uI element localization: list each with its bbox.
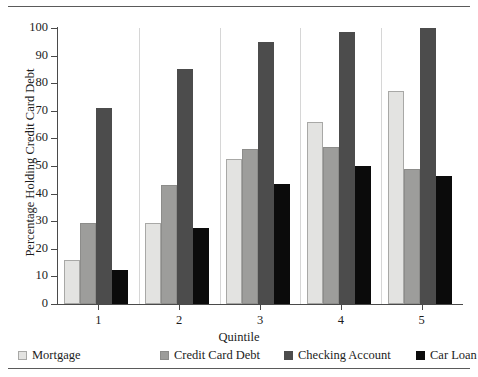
legend-label: Checking Account bbox=[298, 348, 391, 362]
bar-car-loan-q1 bbox=[112, 270, 128, 305]
legend-swatch-icon bbox=[284, 351, 293, 360]
y-tick-mark bbox=[51, 83, 57, 84]
x-tick-mark bbox=[260, 305, 261, 310]
legend-label: Car Loan bbox=[430, 348, 477, 362]
bottom-rule bbox=[8, 368, 470, 369]
x-tick-label-q5: 5 bbox=[402, 313, 442, 327]
y-tick-label: 20 bbox=[14, 242, 48, 255]
legend-item-car-loan[interactable]: Car Loan bbox=[416, 348, 477, 362]
legend-label: Mortgage bbox=[32, 348, 81, 362]
y-tick-mark bbox=[51, 276, 57, 277]
y-tick-mark bbox=[51, 56, 57, 57]
y-tick-label: 40 bbox=[14, 187, 48, 200]
bar-credit-card-debt-q4 bbox=[323, 147, 339, 304]
y-tick-label: 10 bbox=[14, 269, 48, 282]
x-tick-mark bbox=[341, 305, 342, 310]
legend-item-credit-card-debt[interactable]: Credit Card Debt bbox=[160, 348, 260, 362]
y-tick-label: 50 bbox=[14, 159, 48, 172]
bar-car-loan-q3 bbox=[274, 184, 290, 304]
x-tick-label-q3: 3 bbox=[240, 313, 280, 327]
x-tick-mark bbox=[179, 305, 180, 310]
legend-label: Credit Card Debt bbox=[174, 348, 260, 362]
group-separator bbox=[300, 28, 301, 304]
y-tick-label: 80 bbox=[14, 76, 48, 89]
y-tick-mark bbox=[51, 221, 57, 222]
group-separator bbox=[220, 28, 221, 304]
bar-car-loan-q4 bbox=[355, 166, 371, 304]
y-tick-mark bbox=[51, 138, 57, 139]
bar-mortgage-q4 bbox=[307, 122, 323, 304]
top-rule bbox=[8, 6, 470, 7]
legend-item-checking-account[interactable]: Checking Account bbox=[284, 348, 391, 362]
bar-credit-card-debt-q3 bbox=[242, 149, 258, 304]
bar-mortgage-q2 bbox=[145, 223, 161, 304]
legend-swatch-icon bbox=[160, 351, 169, 360]
y-tick-mark bbox=[51, 166, 57, 167]
bar-credit-card-debt-q1 bbox=[80, 223, 96, 304]
bar-checking-account-q2 bbox=[177, 69, 193, 304]
legend-item-mortgage[interactable]: Mortgage bbox=[18, 348, 81, 362]
y-tick-mark bbox=[51, 111, 57, 112]
x-tick-label-q1: 1 bbox=[78, 313, 118, 327]
x-tick-mark bbox=[98, 305, 99, 310]
y-tick-label: 70 bbox=[14, 104, 48, 117]
group-separator bbox=[381, 28, 382, 304]
y-tick-label: 0 bbox=[14, 297, 48, 310]
y-tick-label: 100 bbox=[14, 21, 48, 34]
bar-car-loan-q5 bbox=[436, 176, 452, 304]
legend-swatch-icon bbox=[18, 351, 27, 360]
plot-area bbox=[58, 28, 462, 304]
x-tick-label-q2: 2 bbox=[159, 313, 199, 327]
y-tick-mark bbox=[51, 194, 57, 195]
bar-checking-account-q1 bbox=[96, 108, 112, 304]
chart-figure: Percentage Holding Credit Card Debt 0102… bbox=[0, 0, 478, 377]
y-tick-mark bbox=[51, 304, 57, 305]
bar-checking-account-q3 bbox=[258, 42, 274, 304]
bar-mortgage-q3 bbox=[226, 159, 242, 304]
bar-car-loan-q2 bbox=[193, 228, 209, 304]
x-tick-label-q4: 4 bbox=[321, 313, 361, 327]
y-tick-label: 90 bbox=[14, 49, 48, 62]
group-separator bbox=[139, 28, 140, 304]
bar-credit-card-debt-q5 bbox=[404, 169, 420, 304]
y-tick-label: 30 bbox=[14, 214, 48, 227]
y-tick-label: 60 bbox=[14, 131, 48, 144]
bar-mortgage-q5 bbox=[388, 91, 404, 304]
bar-credit-card-debt-q2 bbox=[161, 185, 177, 304]
bar-mortgage-q1 bbox=[64, 260, 80, 304]
x-tick-mark bbox=[422, 305, 423, 310]
bar-checking-account-q4 bbox=[339, 32, 355, 304]
y-tick-mark bbox=[51, 249, 57, 250]
x-axis-title: Quintile bbox=[0, 330, 478, 345]
y-tick-mark bbox=[51, 28, 57, 29]
chart-legend: MortgageCredit Card DebtChecking Account… bbox=[8, 348, 470, 364]
legend-swatch-icon bbox=[416, 351, 425, 360]
bar-checking-account-q5 bbox=[420, 28, 436, 304]
